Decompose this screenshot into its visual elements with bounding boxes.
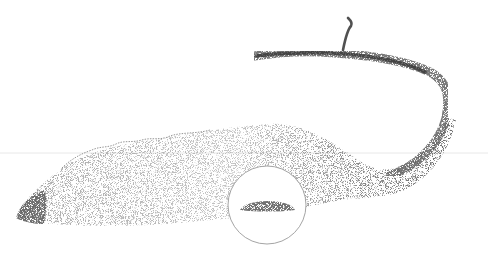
cross-section-inset xyxy=(228,166,306,244)
specimen-illustration xyxy=(0,0,488,255)
figure-caption xyxy=(14,249,484,255)
